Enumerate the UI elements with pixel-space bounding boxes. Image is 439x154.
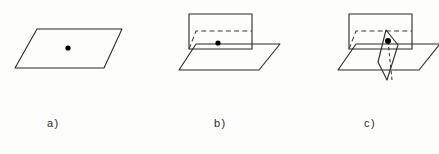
figure-label-c: c) bbox=[364, 117, 376, 129]
figure-label-b: b) bbox=[214, 117, 227, 129]
figure-panel-b bbox=[179, 14, 280, 70]
panel-b-hidden-intersection-line bbox=[189, 31, 252, 49]
geometry-figure-canvas bbox=[0, 0, 439, 154]
panel-b-intersection-point bbox=[215, 40, 220, 45]
panel-c-hidden-intersection-line bbox=[349, 31, 412, 49]
panel-c-slanted-sliver-plane bbox=[378, 30, 398, 80]
panel-c-common-point bbox=[385, 38, 391, 44]
panel-a-center-point bbox=[65, 45, 70, 50]
panel-b-horizontal-plane bbox=[179, 44, 280, 70]
figure-panel-c bbox=[338, 14, 439, 80]
figure-panel-a bbox=[15, 29, 122, 68]
figure-label-a: a) bbox=[47, 117, 60, 129]
